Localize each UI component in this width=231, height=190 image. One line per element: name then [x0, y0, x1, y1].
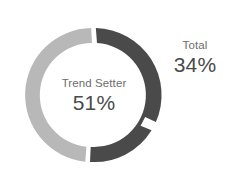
- donut-slice-total[interactable]: [90, 28, 162, 162]
- donut-slice-trend-setter[interactable]: [25, 28, 92, 162]
- donut-chart: Trend Setter 51% Total 34%: [0, 0, 231, 190]
- donut-chart-svg: [0, 0, 231, 190]
